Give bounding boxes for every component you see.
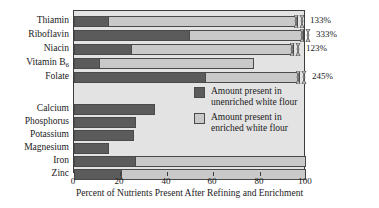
x-axis-title: Percent of Nutrients Present After Refin… (0, 188, 379, 198)
category-label-thiamin: Thiamin (0, 15, 69, 26)
x-tick-label-0: 0 (58, 176, 88, 186)
bar-segment-unenriched (74, 58, 100, 69)
axis-break-icon (300, 28, 314, 41)
category-label-magnesium: Magnesium (0, 142, 69, 153)
category-label-potassium: Potassium (0, 129, 69, 140)
bar-segment-unenriched (74, 16, 109, 27)
value-label-niacin: 123% (306, 43, 327, 54)
x-tick-label-20: 20 (104, 176, 134, 186)
category-label-iron: Iron (0, 155, 69, 166)
category-label-vitamin-b6: Vitamin B6 (0, 57, 69, 69)
category-label-folate: Folate (0, 71, 69, 82)
bar-segment-unenriched (74, 156, 136, 167)
x-tick-label-100: 100 (290, 176, 320, 186)
x-tick-label-60: 60 (197, 176, 227, 186)
axis-break-icon (296, 70, 310, 83)
bar-segment-unenriched (74, 143, 109, 154)
bar-segment-unenriched (74, 104, 155, 115)
legend: Amount present in unenriched white flour… (194, 86, 302, 138)
value-label-riboflavin: 333% (316, 29, 337, 40)
x-tick-label-80: 80 (244, 176, 274, 186)
bar-segment-enriched (74, 58, 254, 69)
bar-segment-unenriched (74, 44, 132, 55)
bar-segment-unenriched (74, 130, 134, 141)
vitamin-b6-subscript: 6 (66, 61, 70, 69)
legend-label-unenriched: Amount present in unenriched white flour (211, 86, 302, 107)
category-label-calcium: Calcium (0, 103, 69, 114)
category-label-phosphorus: Phosphorus (0, 116, 69, 127)
legend-swatch-enriched-icon (194, 113, 205, 124)
bar-segment-unenriched (74, 72, 206, 83)
category-label-niacin: Niacin (0, 43, 69, 54)
legend-swatch-unenriched-icon (194, 87, 205, 98)
axis-break-icon (290, 42, 304, 55)
nutrient-retention-bar-chart: Thiamin Riboflavin Niacin Vitamin B6 Fol… (0, 0, 379, 208)
legend-entry-unenriched: Amount present in unenriched white flour (194, 86, 302, 107)
legend-label-enriched: Amount present in enriched white flour (211, 112, 302, 133)
value-label-thiamin: 133% (310, 15, 331, 26)
category-label-riboflavin: Riboflavin (0, 29, 69, 40)
bar-segment-unenriched (74, 117, 136, 128)
bar-segment-unenriched (74, 30, 190, 41)
legend-entry-enriched: Amount present in enriched white flour (194, 112, 302, 133)
x-tick-label-40: 40 (151, 176, 181, 186)
axis-break-icon (294, 14, 308, 27)
value-label-folate: 245% (312, 71, 333, 82)
